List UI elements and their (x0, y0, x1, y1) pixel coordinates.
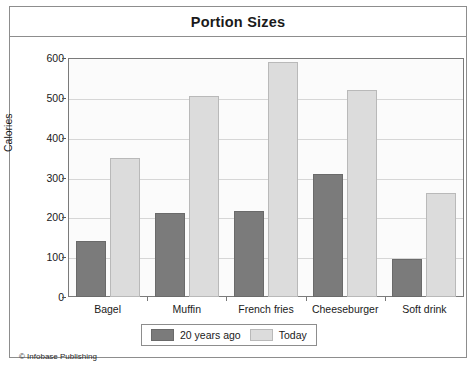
y-tick-label: 200 (30, 211, 64, 223)
y-tick-label: 100 (30, 251, 64, 263)
x-tick-label: Muffin (173, 303, 201, 315)
y-tick-mark (62, 178, 66, 179)
legend-label: 20 years ago (180, 329, 241, 341)
x-minor-tick (147, 297, 148, 301)
y-tick-label: 0 (30, 291, 64, 303)
x-tick-label: Cheeseburger (312, 303, 379, 315)
y-tick-mark (62, 98, 66, 99)
legend-swatch (250, 329, 273, 341)
chart-legend: 20 years agoToday (141, 324, 317, 346)
copyright-credit: © Infobase Publishing (19, 352, 97, 361)
y-tick-label: 500 (30, 92, 64, 104)
y-tick-label: 600 (30, 52, 64, 64)
x-tick-label: Soft drink (402, 303, 446, 315)
y-tick-mark (62, 257, 66, 258)
x-tick-label: Bagel (94, 303, 121, 315)
legend-item: 20 years ago (151, 329, 241, 341)
y-tick-mark (62, 297, 66, 298)
legend-item: Today (250, 329, 307, 341)
legend-label: Today (279, 329, 307, 341)
y-axis-title: Calories (2, 113, 14, 152)
plot-area (68, 58, 464, 297)
x-tick-label: French fries (238, 303, 293, 315)
x-minor-tick (226, 297, 227, 301)
y-tick-mark (62, 138, 66, 139)
gridline (69, 179, 463, 180)
gridline (69, 258, 463, 259)
gridline (69, 139, 463, 140)
page-title: Portion Sizes (191, 14, 285, 30)
y-tick-mark (62, 58, 66, 59)
chart-card: Portion Sizes Calories 01002003004005006… (9, 6, 467, 358)
y-tick-label: 300 (30, 172, 64, 184)
y-tick-label: 400 (30, 132, 64, 144)
x-minor-tick (385, 297, 386, 301)
gridline (69, 99, 463, 100)
chart-figure: Portion Sizes Calories 01002003004005006… (0, 0, 476, 371)
y-tick-mark (62, 217, 66, 218)
legend-swatch (151, 329, 174, 341)
x-minor-tick (306, 297, 307, 301)
gridline (69, 218, 463, 219)
y-axis-ticks: 0100200300400500600 (26, 58, 64, 297)
chart-title-bar: Portion Sizes (10, 7, 466, 37)
